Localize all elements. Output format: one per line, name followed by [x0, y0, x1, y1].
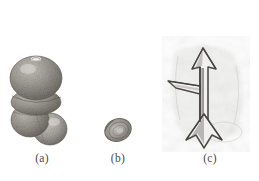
- caption-b: (b): [91, 152, 145, 164]
- caption-c: (c): [183, 152, 237, 164]
- specimen-b-drawing: [96, 108, 140, 152]
- figure-plate: (a): [0, 0, 259, 181]
- specimen-panel-b: [96, 108, 140, 152]
- caption-a: (a): [6, 152, 78, 164]
- specimen-panel-c: [162, 36, 250, 152]
- specimen-panel-a: [6, 52, 78, 152]
- specimen-c-drawing: [162, 36, 250, 152]
- specimen-a-drawing: [6, 52, 78, 152]
